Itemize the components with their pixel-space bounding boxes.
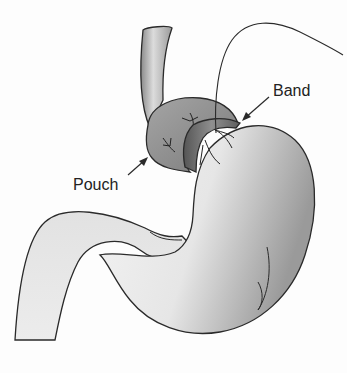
pouch-label: Pouch bbox=[73, 177, 118, 193]
band-arrow bbox=[242, 97, 269, 121]
band-label: Band bbox=[273, 83, 310, 99]
diagram-illustration bbox=[0, 0, 347, 373]
pouch-arrow bbox=[128, 157, 148, 175]
gastric-band-diagram: Band Pouch bbox=[0, 0, 347, 373]
